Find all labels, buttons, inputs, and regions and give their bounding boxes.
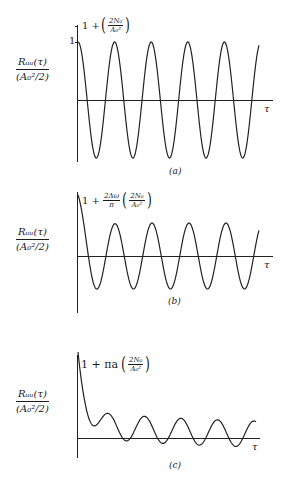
panel-a-tick-1: 1 [69, 35, 75, 46]
panel-b-xlabel: τ [264, 259, 270, 270]
ylabel-denominator: (A₀²/2) [16, 402, 49, 415]
panel-b-curve [78, 195, 259, 289]
panel-b-annotation: 1 + 2Δω π ( 2N₀ A₀² ) [82, 191, 153, 209]
annotation-prefix: 1 + πa [81, 358, 118, 371]
panel-c-caption: (c) [169, 460, 181, 470]
ylabel-denominator: (A₀²/2) [16, 70, 49, 83]
ylabel-denominator: (A₀²/2) [16, 240, 49, 253]
panel-a-caption: (a) [169, 166, 181, 176]
panel-b-caption: (b) [168, 296, 181, 306]
ylabel-numerator: Rᵤᵤ(τ) [16, 56, 49, 70]
panel-c-ylabel: Rᵤᵤ(τ) (A₀²/2) [16, 388, 49, 415]
annotation-prefix: 1 + [82, 20, 100, 31]
panel-a-ylabel: Rᵤᵤ(τ) (A₀²/2) [16, 56, 49, 83]
ylabel-numerator: Rᵤᵤ(τ) [16, 388, 49, 402]
annotation-fraction: 2N₀ A₀² [129, 192, 144, 209]
panel-c-annotation: 1 + πa ( 2N₀ A₀² ) [81, 355, 151, 373]
annotation-prefix: 1 + [82, 195, 100, 206]
panel-a-xlabel: τ [264, 103, 270, 114]
panel-c-xlabel: τ [252, 441, 258, 452]
annotation-fraction: 2N₀ A₀² [108, 17, 123, 34]
ylabel-numerator: Rᵤᵤ(τ) [16, 226, 49, 240]
panel-b-ylabel: Rᵤᵤ(τ) (A₀²/2) [16, 226, 49, 253]
panel-a-annotation: 1 + ( 2N₀ A₀² ) [82, 16, 131, 34]
annotation-fraction: 2N₀ A₀² [128, 356, 143, 373]
annotation-coefficient: 2Δω π [103, 192, 120, 209]
